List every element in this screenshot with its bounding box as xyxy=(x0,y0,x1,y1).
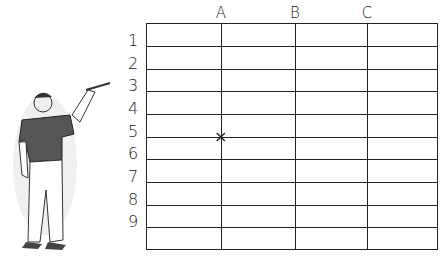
grid-row-line-3 xyxy=(146,91,438,92)
grid-row-line-1 xyxy=(146,46,438,47)
column-label-b: B xyxy=(290,4,300,22)
row-label-7: 7 xyxy=(128,167,138,186)
row-label-6: 6 xyxy=(128,144,138,163)
grid-row-line-7 xyxy=(146,182,438,183)
row-label-5: 5 xyxy=(128,122,138,141)
man-pointing-icon xyxy=(0,70,120,259)
cross-marker-icon: × xyxy=(214,129,227,145)
grid-row-line-8 xyxy=(146,205,438,206)
row-label-1: 1 xyxy=(128,31,138,50)
grid-row-line-9 xyxy=(146,227,438,228)
man-pointing-illustration xyxy=(0,70,120,259)
column-label-c: C xyxy=(362,4,372,22)
row-label-2: 2 xyxy=(128,54,138,73)
grid-row-line-4 xyxy=(146,114,438,115)
row-label-8: 8 xyxy=(128,190,138,209)
grid-row-line-2 xyxy=(146,69,438,70)
column-label-a: A xyxy=(216,4,226,22)
grid-row-line-6 xyxy=(146,159,438,160)
row-label-4: 4 xyxy=(128,99,138,118)
grid-row-line-5 xyxy=(146,137,438,138)
row-label-3: 3 xyxy=(128,76,138,95)
row-label-9: 9 xyxy=(128,212,138,231)
